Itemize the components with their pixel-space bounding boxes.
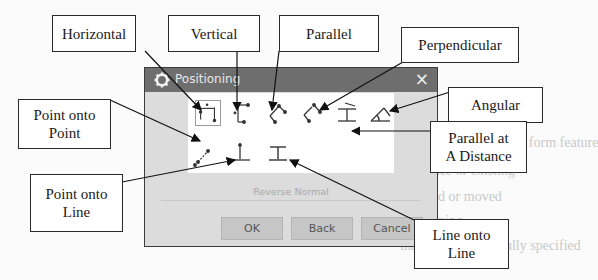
callout-perpendicular: Perpendicular: [401, 27, 519, 63]
parallel-icon[interactable]: [265, 100, 291, 126]
callout-label: Point onto: [33, 106, 95, 124]
parallel-at-distance-icon[interactable]: [335, 100, 361, 126]
separator: [161, 200, 421, 201]
line-onto-line-icon[interactable]: [265, 139, 291, 165]
callout-horizontal: Horizontal: [52, 15, 136, 52]
callout-parallel-at-distance: Parallel at A Distance: [430, 121, 527, 173]
positioning-icon-panel: [188, 93, 394, 173]
point-onto-line-icon[interactable]: [228, 139, 254, 165]
callout-label: Line: [448, 244, 476, 262]
ok-button[interactable]: OK: [221, 217, 283, 240]
callout-line-onto-line: Line onto Line: [414, 219, 509, 269]
callout-label: Line onto: [433, 226, 491, 244]
callout-label: Line: [63, 203, 91, 221]
callout-point-onto-point: Point onto Point: [18, 99, 111, 149]
callout-label: Horizontal: [62, 25, 126, 43]
close-icon[interactable]: ×: [415, 69, 429, 89]
angular-icon[interactable]: [368, 100, 394, 126]
callout-label: Parallel at: [448, 129, 508, 147]
positioning-dialog: Positioning ×: [144, 67, 438, 247]
dialog-title: Positioning: [175, 72, 240, 86]
callout-parallel: Parallel: [279, 15, 379, 52]
callout-label: Point onto: [45, 185, 107, 203]
callout-label: Angular: [471, 96, 520, 114]
callout-point-onto-line: Point onto Line: [30, 174, 123, 232]
point-onto-point-icon[interactable]: [190, 143, 216, 169]
callout-label: Point: [49, 124, 81, 142]
callout-label: Vertical: [191, 25, 238, 43]
callout-label: A Distance: [445, 147, 511, 165]
callout-vertical: Vertical: [168, 15, 260, 52]
gear-icon: [154, 72, 170, 88]
reverse-normal-button[interactable]: Reverse Normal: [145, 186, 437, 197]
back-button[interactable]: Back: [291, 217, 353, 240]
callout-label: Parallel: [306, 25, 352, 43]
dialog-titlebar[interactable]: Positioning ×: [145, 68, 437, 92]
callout-label: Perpendicular: [418, 36, 501, 54]
perpendicular-icon[interactable]: [300, 100, 326, 126]
vertical-icon[interactable]: [230, 100, 256, 126]
horizontal-icon[interactable]: [195, 100, 221, 126]
callout-angular: Angular: [448, 87, 543, 123]
